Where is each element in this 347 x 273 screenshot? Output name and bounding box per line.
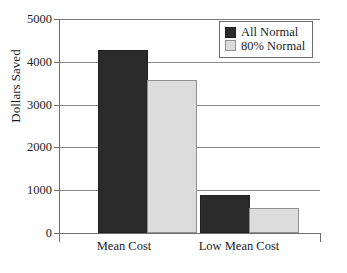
legend-label-80-normal: 80% Normal xyxy=(241,40,305,53)
x-axis-right-end-tick xyxy=(320,233,321,242)
y-tick-mark-3000 xyxy=(54,105,60,106)
bar-all-normal-low-mean-cost xyxy=(200,195,250,233)
y-tick-mark-5000 xyxy=(54,19,60,20)
y-axis-title: Dollars Saved xyxy=(8,31,24,141)
y-tick-label-0: 0 xyxy=(6,227,52,240)
y-tick-mark-0 xyxy=(54,233,60,234)
legend-item-all-normal: All Normal xyxy=(225,26,305,39)
gridline-5000 xyxy=(60,19,320,20)
x-tick-label-low-mean-cost: Low Mean Cost xyxy=(188,240,290,253)
bar-80-normal-mean-cost xyxy=(147,80,197,233)
y-axis-line xyxy=(59,19,60,234)
bar-chart-figure: 5000 4000 3000 2000 1000 0 Dollars Saved… xyxy=(0,0,347,273)
legend-swatch-80-normal xyxy=(225,40,236,51)
y-tick-mark-1000 xyxy=(54,190,60,191)
legend-swatch-all-normal xyxy=(225,27,236,38)
y-tick-label-2000: 2000 xyxy=(6,141,52,154)
x-axis-line xyxy=(59,233,321,234)
x-axis-left-end-tick xyxy=(59,233,60,242)
x-tick-label-mean-cost: Mean Cost xyxy=(86,240,162,253)
y-tick-label-5000: 5000 xyxy=(6,13,52,26)
bar-all-normal-mean-cost xyxy=(98,50,148,233)
y-tick-mark-4000 xyxy=(54,62,60,63)
bar-80-normal-low-mean-cost xyxy=(249,208,299,233)
y-tick-mark-2000 xyxy=(54,147,60,148)
legend: All Normal 80% Normal xyxy=(219,21,313,58)
legend-label-all-normal: All Normal xyxy=(241,26,298,39)
y-tick-label-1000: 1000 xyxy=(6,184,52,197)
legend-item-80-normal: 80% Normal xyxy=(225,40,305,53)
